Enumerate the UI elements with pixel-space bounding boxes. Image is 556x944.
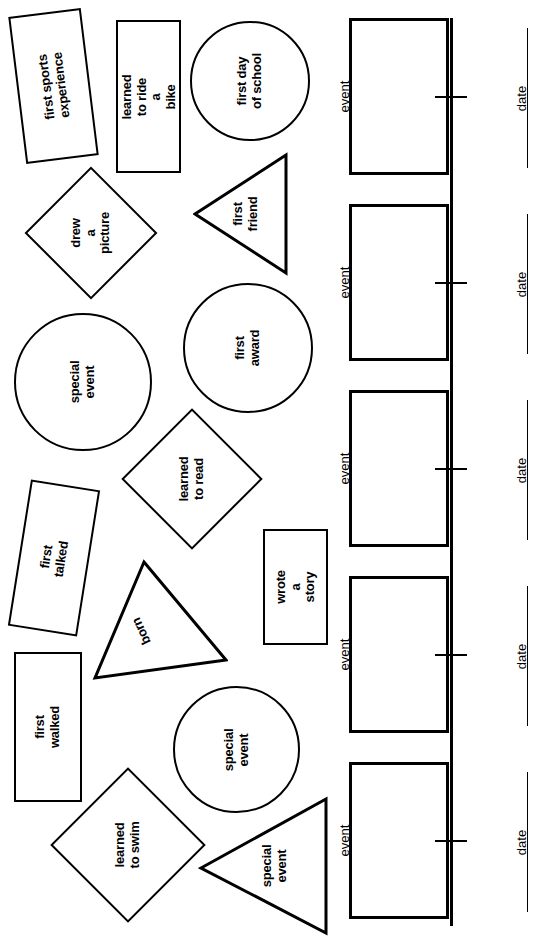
event-box-label: event	[337, 625, 352, 685]
event-box[interactable]	[349, 18, 449, 175]
cutout-learned-to-ride-a-bike[interactable]: learned to ride a bike	[116, 20, 181, 173]
cutout-special-event-triangle[interactable]: special event	[198, 796, 333, 936]
date-label: date	[514, 255, 529, 315]
timeline-tick	[435, 840, 467, 842]
date-label: date	[514, 813, 529, 873]
timeline-tick	[435, 654, 467, 656]
cutout-label-special-event-bottom: special event	[222, 719, 251, 781]
cutout-label-learned-to-ride-a-bike: learned to ride a bike	[119, 74, 177, 119]
cutout-label-first-day-of-school: first day of school	[235, 53, 264, 109]
cutout-first-award[interactable]: first award	[183, 283, 313, 413]
timeline-worksheet: first sports experience learned to ride …	[0, 0, 556, 944]
cutout-wrote-a-story[interactable]: wrote a story	[263, 529, 328, 645]
cutout-label-special-event-top: special event	[68, 349, 97, 416]
cutout-label-learned-to-swim: learned to swim	[113, 819, 142, 872]
cutout-special-event-bottom[interactable]: special event	[173, 686, 300, 813]
cutout-first-friend[interactable]: first friend	[193, 152, 288, 276]
timeline-tick	[435, 468, 467, 470]
cutout-learned-to-read[interactable]: learned to read	[121, 408, 262, 549]
cutout-first-talked[interactable]: first talked	[8, 479, 100, 636]
cutout-first-day-of-school[interactable]: first day of school	[190, 21, 310, 141]
event-box-label: event	[337, 439, 352, 499]
timeline-region: event date event date event date event d…	[330, 0, 556, 944]
cutout-drew-a-picture[interactable]: drew a picture	[25, 167, 158, 300]
cutout-label-first-award: first award	[233, 317, 262, 380]
date-label: date	[514, 441, 529, 501]
cutout-label-first-talked: first talked	[37, 538, 71, 578]
triangle-born-outline	[92, 559, 228, 681]
event-box-label: event	[337, 811, 352, 871]
cutout-label-first-sports-experience: first sports experience	[35, 52, 72, 121]
cutout-label-learned-to-read: learned to read	[177, 457, 206, 502]
event-box[interactable]	[349, 390, 449, 547]
timeline-tick	[435, 96, 467, 98]
event-box[interactable]	[349, 204, 449, 361]
cutout-first-sports-experience[interactable]: first sports experience	[8, 8, 98, 164]
event-box[interactable]	[349, 576, 449, 733]
cutout-label-first-friend: first friend	[230, 197, 259, 232]
date-label: date	[514, 627, 529, 687]
event-box-label: event	[337, 67, 352, 127]
event-box-label: event	[337, 253, 352, 313]
event-box[interactable]	[349, 762, 449, 919]
cutout-label-wrote-a-story: wrote a story	[274, 570, 318, 604]
cutout-special-event-top[interactable]: special event	[14, 313, 152, 451]
cutout-label-drew-a-picture: drew a picture	[69, 211, 113, 256]
timeline-axis-line	[450, 18, 453, 926]
timeline-tick	[435, 282, 467, 284]
cutout-first-walked[interactable]: first walked	[14, 652, 82, 802]
cutout-born[interactable]: born	[92, 559, 228, 681]
cutout-label-first-walked: first walked	[33, 706, 62, 748]
cutout-label-special-event-triangle: special event	[259, 845, 288, 888]
date-label: date	[514, 69, 529, 129]
